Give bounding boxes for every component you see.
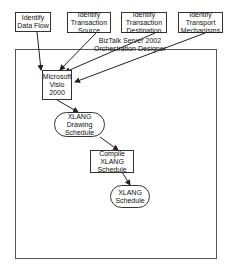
xlang-drawing-schedule-node: XLANG Drawing Schedule [54, 112, 105, 137]
identify-transaction-source-box: Identify Transaction Source [67, 12, 111, 33]
identify-data-flow-box: Identify Data Flow [15, 12, 51, 32]
connector-lines [0, 0, 234, 270]
microsoft-visio-box: Microsoft Visio 2000 [42, 70, 72, 100]
box-label: Identify Transport Mechanisms [179, 11, 222, 35]
xlang-schedule-node: XLANG Schedule [110, 185, 150, 208]
box-label: Identify Transaction Destination [122, 11, 166, 35]
identify-transaction-destination-box: Identify Transaction Destination [121, 12, 167, 33]
box-label: Identify Transaction Source [68, 11, 110, 35]
box-label: Compile XLANG Schedule [91, 150, 133, 174]
compile-xlang-schedule-box: Compile XLANG Schedule [90, 150, 134, 173]
identify-transport-mechanisms-box: Identify Transport Mechanisms [178, 12, 223, 33]
box-label: Microsoft Visio 2000 [43, 73, 71, 97]
box-label: XLANG Schedule [111, 189, 149, 205]
box-label: XLANG Drawing Schedule [55, 113, 104, 137]
box-label: Identify Data Flow [16, 14, 50, 30]
